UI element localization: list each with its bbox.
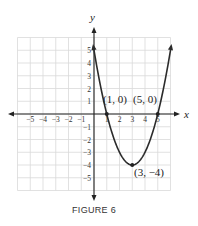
x-tick-label: −5	[26, 115, 34, 124]
x-tick-label: 2	[118, 115, 122, 124]
figure-caption: FIGURE 6	[0, 205, 188, 215]
point-label-1-0: (1, 0)	[103, 93, 127, 106]
y-tick-label: 4	[87, 59, 91, 68]
x-axis-left-arrow-icon	[8, 112, 14, 117]
x-tick-label: −3	[52, 115, 60, 124]
point-label-vertex: (3, −4)	[134, 166, 164, 179]
y-tick-label: 1	[87, 97, 91, 106]
y-tick-label: 2	[87, 85, 91, 94]
y-axis-up-arrow-icon	[92, 27, 97, 33]
y-tick-label: 5	[87, 46, 91, 55]
point-label-5-0: (5, 0)	[133, 93, 157, 106]
y-tick-label: −4	[83, 161, 91, 170]
y-axis-down-arrow-icon	[92, 195, 97, 201]
point-marker	[105, 112, 109, 116]
y-tick-label: −5	[83, 174, 91, 183]
y-tick-label: −3	[83, 148, 91, 157]
y-tick-label: −2	[83, 136, 91, 145]
x-tick-label: −2	[65, 115, 73, 124]
parabola-graph: −5−4−3−2−112345−5−4−3−2−112345 x y (1, 0…	[0, 0, 198, 226]
x-tick-label: 3	[130, 115, 134, 124]
x-axis-label: x	[183, 108, 189, 120]
y-axis-label: y	[89, 11, 95, 23]
point-marker	[156, 112, 160, 116]
x-axis-right-arrow-icon	[174, 112, 180, 117]
y-tick-label: 3	[87, 72, 91, 81]
x-tick-label: −4	[39, 115, 47, 124]
x-tick-label: 4	[143, 115, 147, 124]
y-tick-label: −1	[83, 123, 91, 132]
